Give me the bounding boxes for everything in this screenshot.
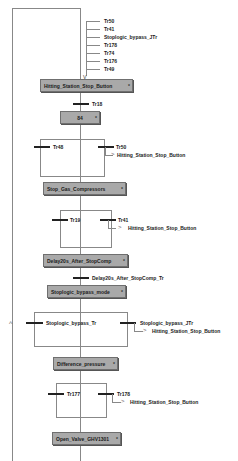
branch-box — [56, 383, 107, 418]
branch-box — [34, 312, 128, 347]
step-84[interactable]: 84 * — [60, 111, 100, 124]
jump-target[interactable]: Hitting_Station_Stop_Button — [152, 328, 220, 334]
entry-transition-label[interactable]: Tr41 — [104, 26, 114, 32]
entry-transition-label[interactable]: Tr49 — [104, 66, 114, 72]
transition-label: Stoplogic_bypass_Tr — [46, 320, 96, 326]
step-marker: * — [121, 183, 123, 196]
step-label: Delay20s_After_StopComp — [47, 255, 111, 268]
jump-target[interactable]: Hitting_Station_Stop_Button — [130, 399, 198, 405]
step-stop-gas-compressors[interactable]: Stop_Gas_Compressors * — [43, 182, 126, 195]
entry-tick — [86, 37, 100, 38]
branch-box — [40, 139, 105, 177]
entry-tick — [86, 53, 100, 54]
loop-line-down — [80, 8, 81, 79]
transition-bar[interactable] — [48, 393, 64, 395]
transition-label: Tr41 — [118, 217, 128, 223]
jump-arrow-icon: > — [143, 327, 147, 334]
jump-target[interactable]: Hitting_Station_Stop_Button — [128, 225, 196, 231]
step-marker: * — [95, 112, 97, 125]
jump-line — [112, 394, 113, 402]
step-stoplogic-bypass-mode[interactable]: Stoplogic_bypass_mode * — [47, 285, 126, 298]
step-hitting-station-stop-button[interactable]: Hitting_Station_Stop_Button * — [40, 79, 133, 92]
entry-transition-label[interactable]: Tr74 — [104, 50, 114, 56]
jump-line — [108, 220, 109, 228]
branch-box — [60, 210, 112, 248]
entry-tick — [86, 29, 100, 30]
transition-bar[interactable] — [73, 103, 89, 105]
step-marker: * — [128, 80, 130, 93]
step-marker: * — [121, 286, 123, 299]
jump-arrow-icon: > — [118, 224, 122, 231]
step-open-valve-ghv1301[interactable]: Open_Valve_GHV1301 * — [52, 432, 121, 445]
entry-tick — [86, 69, 100, 70]
transition-bar[interactable] — [34, 146, 50, 148]
jump-arrow-icon: > — [111, 151, 115, 158]
step-label: Difference_pressure — [57, 358, 105, 371]
step-marker: * — [116, 433, 118, 446]
transition-bar[interactable] — [98, 146, 114, 148]
transition-label: Tr178 — [117, 391, 130, 397]
jump-line — [134, 323, 135, 331]
step-label: Hitting_Station_Stop_Button — [44, 80, 112, 93]
transition-label: Tr19 — [70, 217, 80, 223]
transition-bar[interactable] — [52, 219, 68, 221]
jump-arrow-icon: > — [121, 398, 125, 405]
step-difference-pressure[interactable]: Difference_pressure * — [53, 357, 118, 370]
loop-line-top — [12, 8, 80, 9]
entry-tick — [86, 21, 100, 22]
entry-transition-label[interactable]: Tr176 — [104, 58, 117, 64]
transition-label: Tr48 — [53, 144, 63, 150]
jump-line — [108, 228, 116, 229]
transition-bar[interactable] — [73, 277, 89, 279]
transition-bar[interactable] — [26, 322, 43, 324]
entry-transition-label[interactable]: Tr178 — [104, 42, 117, 48]
transition-label: Tr18 — [92, 101, 102, 107]
transition-label: Tr177 — [67, 391, 80, 397]
step-marker: * — [113, 358, 115, 371]
step-label: Stoplogic_bypass_mode — [51, 286, 110, 299]
step-label: 84 — [77, 112, 83, 125]
step-delay20s-after-stopcomp[interactable]: Delay20s_After_StopComp * — [43, 254, 128, 267]
transition-label: Tr50 — [116, 144, 126, 150]
transition-label: Stoplogic_bypass_JTr — [140, 320, 193, 326]
entry-transition-label[interactable]: Stoplogic_bypass_JTr — [104, 34, 157, 40]
step-label: Open_Valve_GHV1301 — [56, 433, 109, 446]
jump-line — [105, 147, 106, 155]
step-marker: * — [123, 255, 125, 268]
transition-label: Delay20s_After_StopComp_Tr — [92, 275, 164, 281]
jump-target[interactable]: Hitting_Station_Stop_Button — [117, 152, 185, 158]
entry-tick — [86, 45, 100, 46]
step-label: Stop_Gas_Compressors — [47, 183, 105, 196]
entry-tick — [86, 61, 100, 62]
loop-up-arrow-icon: ^ — [9, 320, 12, 327]
jump-line — [112, 402, 121, 403]
entry-transition-label[interactable]: Tr50 — [104, 18, 114, 24]
loop-line-vertical — [12, 8, 13, 461]
jump-line — [134, 331, 143, 332]
